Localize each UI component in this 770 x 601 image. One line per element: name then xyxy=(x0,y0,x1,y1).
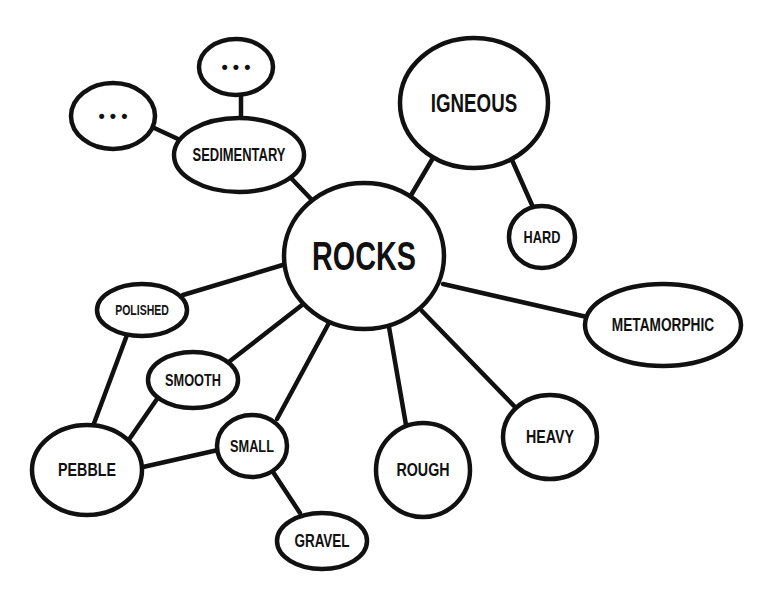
node-polished-label: POLISHED xyxy=(115,302,169,318)
node-sedimentary: SEDIMENTARY xyxy=(174,118,304,192)
node-polished: POLISHED xyxy=(97,284,187,336)
edge-igneous-hard xyxy=(512,160,532,205)
node-rocks-label: ROCKS xyxy=(312,234,416,279)
node-igneous-label: IGNEOUS xyxy=(431,88,517,118)
node-pebble: PEBBLE xyxy=(32,425,142,515)
node-hard-label: HARD xyxy=(524,227,561,246)
edge-smooth-pebble xyxy=(128,399,157,441)
node-gravel: GRAVEL xyxy=(277,513,367,569)
rocks-concept-map: ROCKSIGNEOUSHARDSEDIMENTARY• • •• • •MET… xyxy=(0,0,770,601)
node-dots-left: • • • xyxy=(71,83,155,149)
edge-rocks-polished xyxy=(183,264,286,295)
edge-rocks-metamorphic xyxy=(443,284,587,317)
node-sedimentary-label: SEDIMENTARY xyxy=(193,145,286,165)
node-dots-left-label: • • • xyxy=(99,106,128,126)
edge-rocks-small xyxy=(277,321,330,419)
node-gravel-label: GRAVEL xyxy=(294,531,349,550)
edge-rocks-sedimentary xyxy=(290,177,312,200)
node-small: SMALL xyxy=(217,415,287,477)
edge-small-gravel xyxy=(273,472,300,513)
edge-rocks-igneous xyxy=(410,158,433,197)
node-rough-label: ROUGH xyxy=(396,459,449,480)
node-hard: HARD xyxy=(509,206,575,268)
nodes-layer: ROCKSIGNEOUSHARDSEDIMENTARY• • •• • •MET… xyxy=(32,38,741,569)
node-small-label: SMALL xyxy=(230,436,274,455)
edge-rocks-smooth xyxy=(230,305,302,361)
node-smooth-label: SMOOTH xyxy=(165,370,221,389)
node-metamorphic-label: METAMORPHIC xyxy=(612,314,714,336)
node-rough: ROUGH xyxy=(376,423,470,517)
node-heavy: HEAVY xyxy=(503,395,597,479)
edge-rocks-heavy xyxy=(422,311,516,408)
node-dots-top: • • • xyxy=(199,39,273,95)
node-rocks: ROCKS xyxy=(284,183,444,329)
node-smooth: SMOOTH xyxy=(148,352,238,408)
edge-rocks-rough xyxy=(389,327,406,425)
node-igneous: IGNEOUS xyxy=(400,38,548,168)
node-metamorphic: METAMORPHIC xyxy=(585,284,741,366)
node-dots-top-label: • • • xyxy=(222,57,251,77)
node-heavy-label: HEAVY xyxy=(526,426,574,447)
edge-small-pebble xyxy=(143,450,218,467)
node-pebble-label: PEBBLE xyxy=(58,459,116,480)
edge-polished-pebble xyxy=(93,335,127,426)
